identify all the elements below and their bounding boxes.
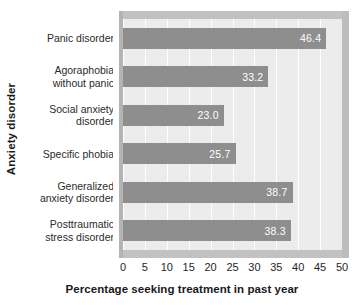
y-axis-tick-label: Social anxiety disorder [22, 96, 117, 135]
y-axis-tick-label-line: disorder [49, 115, 114, 128]
bar-value-label: 23.0 [197, 109, 218, 121]
bar-value-label: 38.7 [266, 186, 287, 198]
bar-row: 25.7 [123, 135, 342, 174]
x-axis-tick-label: 35 [270, 261, 282, 273]
y-axis-tick-label-line: stress disorder [45, 231, 114, 244]
y-axis-tick-label-line: without panic [53, 77, 114, 90]
x-axis-tick-label: 50 [336, 261, 348, 273]
y-axis-tick-label: Agoraphobia without panic [22, 58, 117, 97]
y-axis-title-text: Anxiety disorder [5, 83, 17, 175]
bar[interactable]: 23.0 [123, 105, 224, 126]
bar-row: 38.3 [123, 212, 342, 251]
bar-row: 23.0 [123, 96, 342, 135]
y-axis-tick-label-line: Specific phobia [43, 148, 114, 161]
x-axis-tick-label: 5 [142, 261, 148, 273]
y-axis-tick-labels: Panic disorder Agoraphobia without panic… [22, 19, 117, 250]
x-axis-tick-label: 25 [226, 261, 238, 273]
plot-frame: 46.433.223.025.738.738.3 [113, 11, 349, 259]
bar-value-label: 33.2 [242, 71, 263, 83]
y-axis-tick-label-line: Generalized [40, 180, 114, 193]
x-axis-tick-label: 0 [120, 261, 126, 273]
x-axis-tick-label: 30 [248, 261, 260, 273]
bar-row: 33.2 [123, 58, 342, 97]
bar-value-label: 38.3 [265, 225, 286, 237]
plot-area: 46.433.223.025.738.738.3 [123, 19, 342, 250]
x-axis-tick-labels: 05101520253035404550 [123, 261, 342, 277]
y-axis-tick-label-line: Posttraumatic [45, 218, 114, 231]
x-axis-tick-label: 15 [183, 261, 195, 273]
plot-frame-bottom-band [119, 250, 349, 258]
x-axis-tick-label: 20 [204, 261, 216, 273]
bar-series: 46.433.223.025.738.738.3 [123, 19, 342, 250]
bar[interactable]: 33.2 [123, 66, 268, 87]
plot-frame-top-band [119, 11, 349, 19]
bar-chart: Anxiety disorder Panic disorder Agorapho… [0, 0, 364, 305]
bar-row: 46.4 [123, 19, 342, 58]
y-axis-tick-label: Posttraumatic stress disorder [22, 212, 117, 251]
y-axis-tick-label-line: anxiety disorder [40, 192, 114, 205]
bar[interactable]: 38.3 [123, 220, 291, 241]
x-axis-title-text: Percentage seeking treatment in past yea… [66, 283, 299, 295]
bar[interactable]: 25.7 [123, 143, 236, 164]
plot-frame-right-band [342, 11, 349, 258]
bar[interactable]: 38.7 [123, 182, 293, 203]
y-axis-tick-label: Specific phobia [22, 135, 117, 174]
x-axis-tick-label: 45 [314, 261, 326, 273]
y-axis-tick-label-line: Panic disorder [47, 32, 114, 45]
x-axis-tick-label: 40 [292, 261, 304, 273]
bar-value-label: 25.7 [209, 148, 230, 160]
bar-value-label: 46.4 [300, 32, 321, 44]
y-axis-tick-label: Panic disorder [22, 19, 117, 58]
bar-row: 38.7 [123, 173, 342, 212]
bar[interactable]: 46.4 [123, 28, 326, 49]
x-axis-title: Percentage seeking treatment in past yea… [0, 283, 364, 295]
x-axis-tick-label: 10 [161, 261, 173, 273]
y-axis-tick-label-line: Social anxiety [49, 103, 114, 116]
y-axis-tick-label-line: Agoraphobia [53, 64, 114, 77]
y-axis-title: Anxiety disorder [0, 0, 22, 258]
y-axis-tick-label: Generalized anxiety disorder [22, 173, 117, 212]
